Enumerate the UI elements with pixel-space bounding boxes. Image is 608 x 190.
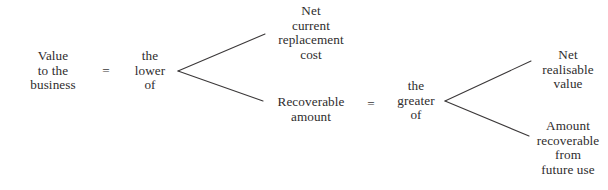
node-amount-recoverable-line-1: Amount: [537, 119, 600, 134]
node-recoverable-amount-line-1: Recoverable: [278, 95, 345, 110]
node-value-to-the-business-line-3: business: [30, 78, 76, 93]
node-recoverable-amount-line-2: amount: [278, 110, 345, 125]
node-the-lower-of-line-2: lower: [135, 64, 166, 79]
node-amount-recoverable-line-4: future use: [537, 163, 600, 178]
node-amount-recoverable-line-3: from: [537, 148, 600, 163]
node-net-current-replacement-cost-line-4: cost: [278, 48, 344, 63]
node-net-current-replacement-cost-line-1: Net: [278, 4, 344, 19]
node-net-realisable-value-line-3: value: [542, 77, 594, 92]
node-value-to-the-business: Value to the business: [30, 49, 76, 93]
branch-lower-to-net-current-replacement-cost: [178, 34, 265, 71]
node-net-current-replacement-cost-line-3: replacement: [278, 33, 344, 48]
node-the-greater-of-line-3: of: [397, 108, 434, 123]
node-net-realisable-value: Net realisable value: [542, 48, 594, 92]
node-the-greater-of-line-2: greater: [397, 94, 434, 109]
node-value-to-the-business-line-1: Value: [30, 49, 76, 64]
node-net-current-replacement-cost: Net current replacement cost: [278, 4, 344, 62]
branch-greater-to-net-realisable-value: [445, 61, 531, 101]
operator-equals-second: =: [367, 97, 374, 112]
node-the-greater-of-line-1: the: [397, 79, 434, 94]
node-the-lower-of-line-3: of: [135, 78, 166, 93]
value-to-the-business-diagram: Value to the business = the lower of Net…: [0, 0, 608, 190]
branch-lower-to-recoverable-amount: [178, 71, 263, 101]
node-value-to-the-business-line-2: to the: [30, 64, 76, 79]
node-net-realisable-value-line-2: realisable: [542, 63, 594, 78]
operator-equals-first: =: [102, 64, 109, 79]
node-amount-recoverable-from-future-use: Amount recoverable from future use: [537, 119, 600, 177]
node-the-greater-of: the greater of: [397, 79, 434, 123]
branch-greater-to-amount-recoverable: [445, 101, 529, 136]
node-the-lower-of-line-1: the: [135, 49, 166, 64]
node-amount-recoverable-line-2: recoverable: [537, 133, 600, 148]
node-the-lower-of: the lower of: [135, 49, 166, 93]
node-net-current-replacement-cost-line-2: current: [278, 18, 344, 33]
node-recoverable-amount: Recoverable amount: [278, 95, 345, 124]
node-net-realisable-value-line-1: Net: [542, 48, 594, 63]
